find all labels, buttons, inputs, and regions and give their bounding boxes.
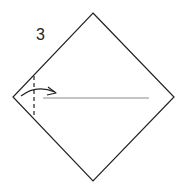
diagram-canvas: [0, 0, 183, 192]
step-number: 3: [36, 27, 45, 43]
origami-diagram: 3: [0, 0, 183, 192]
